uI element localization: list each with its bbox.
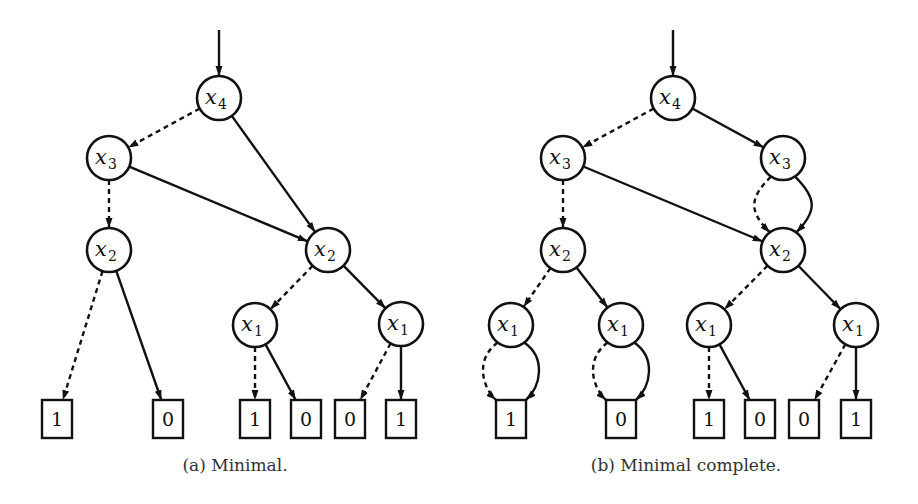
- decision-node: x3: [87, 136, 131, 180]
- low-edge: [483, 343, 498, 400]
- subfigure-a-minimal: x4x3x2x2x1x1101001: [42, 30, 423, 438]
- terminal-node: 0: [745, 400, 775, 438]
- node-subscript: 1: [855, 323, 864, 339]
- low-edge: [63, 271, 103, 400]
- decision-node: x2: [87, 228, 131, 272]
- terminal-label: 1: [703, 408, 715, 430]
- decision-node: x1: [379, 302, 423, 346]
- terminal-label: 0: [300, 408, 312, 430]
- node-subscript: 1: [510, 323, 519, 339]
- low-edge: [524, 268, 551, 307]
- node-subscript: 1: [620, 323, 629, 339]
- node-subscript: 3: [562, 156, 571, 172]
- low-edge: [128, 109, 199, 148]
- terminal-label: 1: [850, 408, 862, 430]
- terminal-node: 0: [291, 400, 321, 438]
- figure: x4x3x2x2x1x1101001 x4x3x3x2x2x1x1x1x1101…: [0, 0, 918, 504]
- decision-node: x3: [761, 136, 805, 180]
- terminal-node: 0: [335, 400, 365, 438]
- terminal-label: 1: [505, 408, 517, 430]
- nodes: x4x3x2x2x1x1101001: [42, 76, 423, 438]
- terminal-node: 0: [606, 400, 636, 438]
- low-edge: [754, 177, 771, 233]
- caption-b: (b) Minimal complete.: [591, 455, 781, 475]
- low-edge: [270, 266, 312, 309]
- terminal-label: 0: [754, 408, 766, 430]
- decision-node: x4: [197, 76, 241, 120]
- terminal-label: 1: [51, 408, 63, 430]
- terminal-node: 0: [153, 400, 183, 438]
- terminal-label: 1: [249, 408, 261, 430]
- node-subscript: 4: [218, 96, 227, 112]
- decision-node: x3: [541, 136, 585, 180]
- high-edge: [634, 343, 649, 400]
- high-edge: [129, 167, 307, 242]
- decision-node: x2: [306, 228, 350, 272]
- high-edge: [719, 344, 749, 400]
- high-edge: [576, 267, 607, 307]
- decision-node: x1: [599, 303, 643, 347]
- high-edge: [795, 177, 812, 233]
- node-subscript: 4: [672, 96, 681, 112]
- terminal-node: 1: [42, 400, 72, 438]
- low-edge: [593, 343, 608, 400]
- high-edge: [524, 343, 539, 400]
- terminal-node: 1: [240, 400, 270, 438]
- high-edge: [583, 166, 762, 241]
- low-edge: [724, 266, 767, 310]
- subfigure-b-minimal-complete: x4x3x3x2x2x1x1x1x1101001: [483, 30, 878, 438]
- node-subscript: 3: [782, 156, 791, 172]
- high-edge: [798, 266, 840, 309]
- terminal-node: 1: [841, 400, 871, 438]
- node-subscript: 1: [708, 323, 717, 339]
- node-subscript: 3: [108, 156, 117, 172]
- terminal-label: 0: [615, 408, 627, 430]
- terminal-label: 0: [344, 408, 356, 430]
- node-subscript: 2: [782, 248, 791, 264]
- terminal-node: 0: [789, 400, 819, 438]
- node-subscript: 1: [254, 323, 263, 339]
- low-edge: [815, 344, 846, 400]
- decision-node: x2: [541, 228, 585, 272]
- decision-node: x1: [834, 303, 878, 347]
- decision-node: x4: [651, 76, 695, 120]
- low-edge: [360, 343, 390, 400]
- node-subscript: 2: [327, 248, 336, 264]
- high-edge: [116, 271, 161, 400]
- high-edge: [265, 344, 295, 400]
- high-edge: [343, 266, 385, 309]
- terminal-node: 1: [694, 400, 724, 438]
- high-edge: [692, 109, 763, 148]
- terminal-label: 0: [798, 408, 810, 430]
- node-subscript: 1: [400, 322, 409, 338]
- node-subscript: 2: [108, 248, 117, 264]
- terminal-label: 0: [162, 408, 174, 430]
- decision-node: x1: [233, 303, 277, 347]
- nodes: x4x3x3x2x2x1x1x1x1101001: [489, 76, 878, 438]
- terminal-node: 1: [496, 400, 526, 438]
- low-edge: [582, 109, 653, 148]
- caption-a: (a) Minimal.: [182, 455, 287, 475]
- decision-node: x1: [687, 303, 731, 347]
- decision-node: x2: [761, 228, 805, 272]
- terminal-node: 1: [386, 400, 416, 438]
- node-subscript: 2: [562, 248, 571, 264]
- decision-node: x1: [489, 303, 533, 347]
- terminal-label: 1: [395, 408, 407, 430]
- bdd-diagrams: x4x3x2x2x1x1101001 x4x3x3x2x2x1x1x1x1101…: [0, 0, 918, 504]
